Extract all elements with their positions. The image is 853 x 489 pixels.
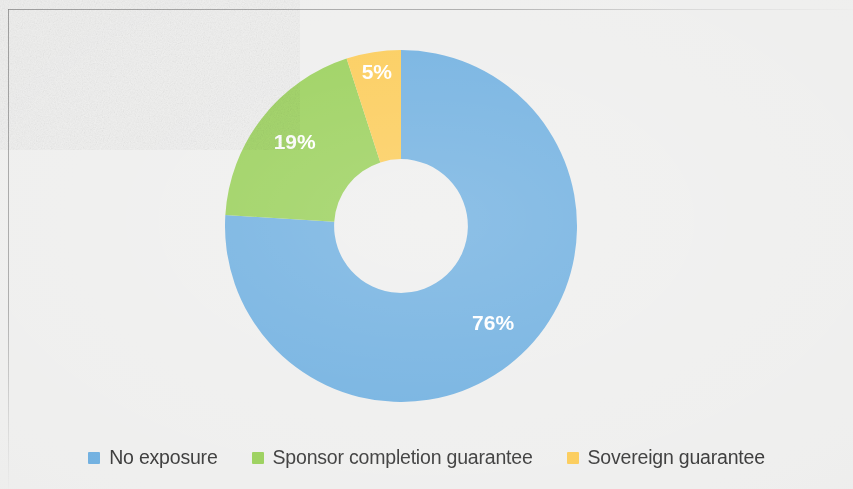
legend-item-label: Sovereign guarantee bbox=[588, 446, 765, 469]
chart-legend: No exposureSponsor completion guaranteeS… bbox=[0, 446, 853, 469]
legend-swatch-icon bbox=[88, 452, 100, 464]
donut-chart-svg: 76%19%5% bbox=[225, 50, 577, 402]
legend-item[interactable]: No exposure bbox=[88, 446, 217, 469]
legend-item[interactable]: Sovereign guarantee bbox=[567, 446, 765, 469]
donut-slice-label: 5% bbox=[362, 60, 393, 83]
donut-slice-label: 76% bbox=[472, 311, 514, 334]
legend-item-label: Sponsor completion guarantee bbox=[273, 446, 533, 469]
legend-item-label: No exposure bbox=[109, 446, 217, 469]
legend-swatch-icon bbox=[567, 452, 579, 464]
chart-page: 76%19%5% No exposureSponsor completion g… bbox=[0, 0, 853, 489]
frame-left-rule bbox=[8, 9, 9, 489]
donut-slices bbox=[225, 50, 577, 402]
donut-chart: 76%19%5% bbox=[225, 50, 577, 402]
legend-item[interactable]: Sponsor completion guarantee bbox=[252, 446, 533, 469]
frame-top-rule bbox=[8, 9, 853, 10]
donut-slice-label: 19% bbox=[274, 130, 316, 153]
legend-swatch-icon bbox=[252, 452, 264, 464]
